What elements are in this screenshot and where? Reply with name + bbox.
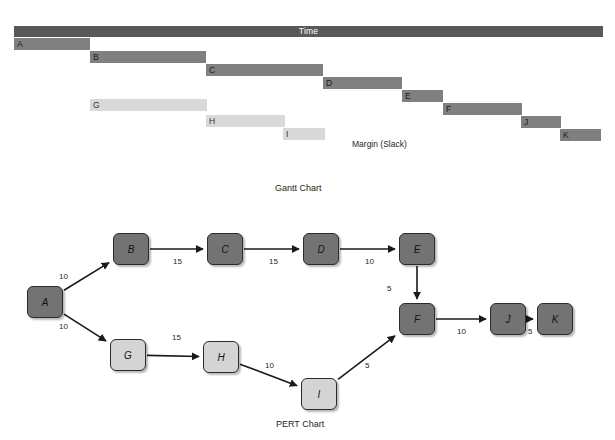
pert-node-label: C bbox=[221, 244, 228, 255]
gantt-bar-label: J bbox=[524, 117, 528, 127]
pert-edge-weight-j-k: 5 bbox=[528, 327, 532, 336]
gantt-bar-label: K bbox=[563, 130, 569, 140]
gantt-bar-label: B bbox=[93, 52, 99, 62]
pert-node-j[interactable]: J bbox=[490, 303, 526, 335]
pert-edge-a-b bbox=[64, 263, 109, 291]
pert-edge-i-f bbox=[338, 336, 395, 380]
pert-node-label: J bbox=[506, 314, 511, 325]
gantt-bar-f: F bbox=[443, 103, 522, 115]
gantt-bar-a: A bbox=[14, 38, 90, 50]
pert-edge-weight-f-j: 10 bbox=[457, 327, 466, 336]
gantt-slack-legend-label: Margin (Slack) bbox=[352, 139, 407, 149]
gantt-bar-label: F bbox=[446, 104, 451, 114]
pert-node-c[interactable]: C bbox=[207, 233, 243, 265]
gantt-time-axis-header: Time bbox=[14, 26, 603, 37]
pert-node-label: H bbox=[217, 352, 224, 363]
gantt-bar-label: C bbox=[209, 65, 215, 75]
pert-node-label: A bbox=[42, 297, 49, 308]
pert-edge-weight-i-f: 5 bbox=[365, 361, 369, 370]
pert-edge-weight-d-e: 10 bbox=[365, 257, 374, 266]
gantt-chart: Time ABCDEFJKGHI Margin (Slack) Gantt Ch… bbox=[0, 0, 615, 200]
gantt-bar-k: K bbox=[560, 129, 601, 141]
figure-root: Time ABCDEFJKGHI Margin (Slack) Gantt Ch… bbox=[0, 0, 615, 440]
pert-node-label: B bbox=[128, 244, 135, 255]
pert-edge-g-h bbox=[147, 355, 199, 356]
pert-node-label: D bbox=[317, 244, 324, 255]
pert-edge-weight-a-b: 10 bbox=[59, 272, 68, 281]
pert-caption: PERT Chart bbox=[276, 419, 324, 429]
gantt-bar-label: E bbox=[405, 91, 411, 101]
pert-node-label: G bbox=[124, 350, 132, 361]
pert-node-label: K bbox=[552, 314, 559, 325]
gantt-bar-label: A bbox=[17, 39, 23, 49]
pert-chart: ABCDEFJKGHI 1015151051015105105 PERT Cha… bbox=[0, 205, 615, 440]
pert-edge-weight-g-h: 15 bbox=[172, 333, 181, 342]
pert-node-f[interactable]: F bbox=[399, 303, 435, 335]
pert-node-label: I bbox=[318, 389, 321, 400]
gantt-bar-i: I bbox=[283, 128, 325, 140]
gantt-bar-b: B bbox=[90, 51, 206, 63]
gantt-bar-d: D bbox=[323, 77, 402, 89]
gantt-bar-e: E bbox=[402, 90, 443, 102]
gantt-bar-label: G bbox=[93, 100, 100, 110]
pert-edge-weight-b-c: 15 bbox=[173, 257, 182, 266]
gantt-caption: Gantt Chart bbox=[275, 183, 322, 193]
gantt-bar-label: I bbox=[286, 129, 288, 139]
pert-node-a[interactable]: A bbox=[27, 286, 63, 318]
gantt-bar-c: C bbox=[206, 64, 323, 76]
pert-edge-weight-c-d: 15 bbox=[269, 257, 278, 266]
gantt-bar-g: G bbox=[90, 99, 207, 111]
pert-node-b[interactable]: B bbox=[113, 233, 149, 265]
gantt-bar-label: D bbox=[326, 78, 332, 88]
pert-node-d[interactable]: D bbox=[303, 233, 339, 265]
pert-edge-weight-a-g: 10 bbox=[59, 322, 68, 331]
pert-node-k[interactable]: K bbox=[537, 303, 573, 335]
gantt-bar-j: J bbox=[521, 116, 561, 128]
pert-edge-a-g bbox=[64, 314, 106, 341]
pert-node-e[interactable]: E bbox=[399, 233, 435, 265]
gantt-bar-h: H bbox=[206, 115, 285, 127]
pert-node-h[interactable]: H bbox=[203, 341, 239, 373]
pert-node-label: E bbox=[414, 244, 421, 255]
pert-edge-weight-e-f: 5 bbox=[387, 284, 391, 293]
pert-node-i[interactable]: I bbox=[301, 378, 337, 410]
gantt-bar-label: H bbox=[209, 116, 215, 126]
pert-edge-weight-h-i: 10 bbox=[265, 361, 274, 370]
pert-node-label: F bbox=[414, 314, 420, 325]
pert-node-g[interactable]: G bbox=[110, 339, 146, 371]
